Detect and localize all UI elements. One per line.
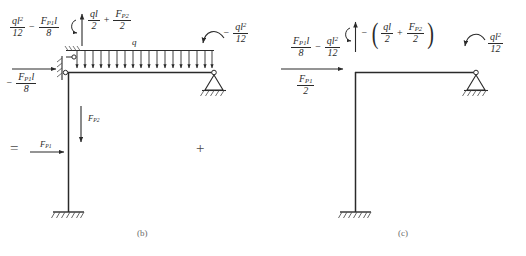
- right-moment-curl-b: [203, 32, 224, 43]
- distributed-load-arrows-b: [77, 51, 212, 68]
- figure-stage: ql2 12 − FP1l 8 ql 2 + FP2 2 − ql2 12 − …: [0, 0, 526, 256]
- plus-operator: +: [196, 140, 204, 157]
- label-b-distributed-load: q: [132, 38, 137, 47]
- joint-moment-curl-b: [72, 20, 77, 33]
- label-c-top-left-moment: FP1l 8 − ql2 12: [291, 36, 340, 59]
- panel-b-geometry: [12, 14, 226, 218]
- pin-support-c: [463, 70, 489, 96]
- fixed-base-support-b: [52, 212, 85, 218]
- label-b-right-moment: − ql2 12: [222, 22, 248, 44]
- label-b-top-left-moment: ql2 12 − FP1l 8: [10, 16, 59, 39]
- caption-b: (b): [137, 228, 148, 238]
- caption-c: (c): [398, 228, 408, 238]
- equals-operator: =: [10, 140, 18, 157]
- pin-support-b: [201, 70, 227, 96]
- label-c-left-horizontal-force: FP1 2: [297, 74, 314, 97]
- label-c-vertical-reaction: − ( ql 2 + FP2 2 ): [360, 22, 434, 45]
- right-moment-curl-c: [465, 34, 485, 46]
- joint-moment-curl-c: [346, 28, 351, 41]
- left-wall-hatch-b: [57, 56, 68, 80]
- top-joint-hatch-b: [65, 46, 82, 59]
- structural-diagram-svg: [0, 0, 526, 256]
- fixed-base-support-c: [339, 212, 372, 218]
- label-b-vertical-reaction: ql 2 + FP2 2: [88, 9, 131, 32]
- label-b-force-p2: FP2: [88, 114, 99, 124]
- label-c-right-moment: ql2 12: [488, 32, 503, 54]
- label-b-force-p1: FP1: [40, 140, 51, 150]
- label-b-left-horizontal-moment: − FP1l 8: [5, 72, 36, 95]
